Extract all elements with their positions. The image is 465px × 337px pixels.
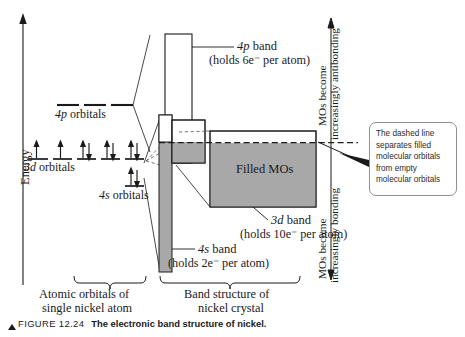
atomic-brace-label-line2: single nickel atom xyxy=(42,302,132,316)
correlation-lines-4p xyxy=(133,35,150,152)
antibonding-label-line1: MOs become xyxy=(316,65,329,126)
callout-leader-line xyxy=(318,142,369,167)
caption-title: The electronic band structure of nickel. xyxy=(91,318,266,329)
4s-band-label: 4s band xyxy=(198,242,237,256)
filled-mos-label: Filled MOs xyxy=(236,162,293,176)
4p-orbitals-label: 4p orbitals xyxy=(55,108,106,121)
figure-caption: FIGURE 12.24The electronic band structur… xyxy=(8,318,266,329)
caption-number: FIGURE 12.24 xyxy=(18,318,84,329)
callout-line-2: separates filled xyxy=(376,140,451,152)
bonding-label-line1: MOs become xyxy=(316,218,329,279)
4s-band-holds-label: (holds 2e⁻ per atom) xyxy=(168,257,269,271)
antibonding-label-line2: increasingly antibonding xyxy=(328,28,341,140)
4s-orbital-level xyxy=(125,168,144,187)
4p-band-label: 4p band xyxy=(237,39,277,53)
dashed-line-callout: The dashed line separates filled molecul… xyxy=(369,122,457,196)
callout-line-4: from empty xyxy=(376,163,451,175)
3d-orbitals-label: 3d orbitals xyxy=(24,161,75,174)
4s-orbitals-label: 4s orbitals xyxy=(99,189,149,202)
band-brace-label-line2: nickel crystal xyxy=(198,302,264,316)
4p-band-holds-label: (holds 6e⁻ per atom) xyxy=(209,54,310,68)
callout-line-5: molecular orbitals xyxy=(376,174,451,186)
4s-band-rect xyxy=(159,115,172,272)
magnification-lines-solid xyxy=(176,165,210,207)
3d-band-small-rect xyxy=(172,120,205,163)
3d-band-label: 3d band xyxy=(271,213,311,227)
callout-line-3: molecular orbitals xyxy=(376,151,451,163)
band-brace-label-line1: Band structure of xyxy=(184,288,269,302)
3d-electron-arrows xyxy=(34,141,139,160)
bonding-label-line2: increasingly bonding xyxy=(328,188,341,283)
atomic-brace-label-line1: Atomic orbitals of xyxy=(39,288,129,302)
callout-line-1: The dashed line xyxy=(376,128,451,140)
